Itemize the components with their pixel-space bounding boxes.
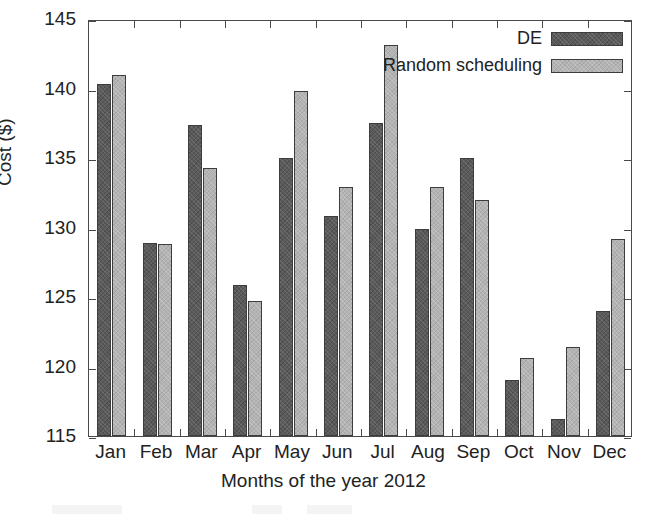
bar-jan-de [97,84,111,436]
x-tick-3 [225,429,226,436]
y-tick-right-140 [624,91,631,92]
y-tick-right-125 [624,299,631,300]
y-tick-right-115 [624,438,631,439]
x-tick-top-3 [225,21,226,28]
bar-feb-de [143,243,157,436]
y-tick-label-135: 135 [0,147,76,169]
x-tick-top-10 [542,21,543,28]
bar-aug-de [415,229,429,436]
x-tick-label-mar: Mar [185,441,218,463]
bar-dec-random-scheduling [611,239,625,436]
x-tick-top-9 [497,21,498,28]
y-tick-125 [89,299,96,300]
bar-jun-random-scheduling [339,187,353,436]
x-tick-4 [270,429,271,436]
y-tick-label-130: 130 [0,217,76,239]
y-tick-130 [89,230,96,231]
y-tick-right-130 [624,230,631,231]
y-tick-label-120: 120 [0,356,76,378]
y-tick-right-145 [624,21,631,22]
bar-chart-figure: Cost ($) 115120125130135140145 DE Random… [0,0,647,519]
legend-label-random-scheduling: Random scheduling [383,55,542,76]
legend-swatch-random-scheduling [551,59,623,73]
bar-oct-de [505,380,519,436]
x-tick-label-aug: Aug [411,441,445,463]
x-tick-label-feb: Feb [140,441,173,463]
bar-may-random-scheduling [294,91,308,436]
y-tick-label-145: 145 [0,8,76,30]
x-tick-label-dec: Dec [592,441,626,463]
y-tick-label-140: 140 [0,78,76,100]
y-tick-right-120 [624,369,631,370]
bar-mar-random-scheduling [203,168,217,436]
legend-label-de: DE [517,28,542,49]
x-tick-top-4 [270,21,271,28]
plot-area: DE Random scheduling [88,20,632,437]
legend-item-random-scheduling: Random scheduling [383,55,623,76]
bar-nov-de [551,419,565,436]
bar-apr-de [233,285,247,437]
x-axis-title: Months of the year 2012 [0,470,647,492]
bar-sep-random-scheduling [475,200,489,436]
x-tick-1 [134,429,135,436]
x-tick-top-2 [180,21,181,28]
x-tick-label-sep: Sep [456,441,490,463]
y-tick-140 [89,91,96,92]
x-tick-7 [406,429,407,436]
x-tick-2 [180,429,181,436]
legend-item-de: DE [517,28,623,49]
x-tick-top-5 [316,21,317,28]
y-tick-135 [89,160,96,161]
x-tick-label-jun: Jun [322,441,353,463]
y-tick-120 [89,369,96,370]
x-tick-label-jan: Jan [95,441,126,463]
y-tick-145 [89,21,96,22]
x-tick-9 [497,429,498,436]
x-tick-8 [452,429,453,436]
bar-oct-random-scheduling [520,358,534,436]
x-tick-top-6 [361,21,362,28]
x-tick-label-nov: Nov [547,441,581,463]
x-tick-top-8 [452,21,453,28]
legend-swatch-de [551,32,623,46]
x-tick-10 [542,429,543,436]
x-tick-label-may: May [274,441,310,463]
bar-feb-random-scheduling [158,244,172,436]
y-tick-label-125: 125 [0,286,76,308]
scan-artifact [52,505,402,514]
x-tick-label-apr: Apr [232,441,262,463]
y-tick-115 [89,438,96,439]
bar-nov-random-scheduling [566,347,580,436]
legend: DE Random scheduling [383,28,623,76]
bar-dec-de [596,311,610,436]
bar-sep-de [460,158,474,436]
x-tick-11 [588,429,589,436]
bar-may-de [279,158,293,436]
y-tick-label-115: 115 [0,425,76,447]
bar-jul-random-scheduling [384,45,398,436]
x-tick-5 [316,429,317,436]
x-tick-top-7 [406,21,407,28]
bar-mar-de [188,125,202,436]
bar-jul-de [369,123,383,436]
bar-aug-random-scheduling [430,187,444,436]
x-tick-label-jul: Jul [371,441,395,463]
x-tick-top-11 [588,21,589,28]
x-tick-label-oct: Oct [504,441,534,463]
bar-jun-de [324,216,338,436]
bar-apr-random-scheduling [248,301,262,436]
x-tick-top-1 [134,21,135,28]
y-tick-right-135 [624,160,631,161]
x-tick-6 [361,429,362,436]
bar-jan-random-scheduling [112,75,126,436]
